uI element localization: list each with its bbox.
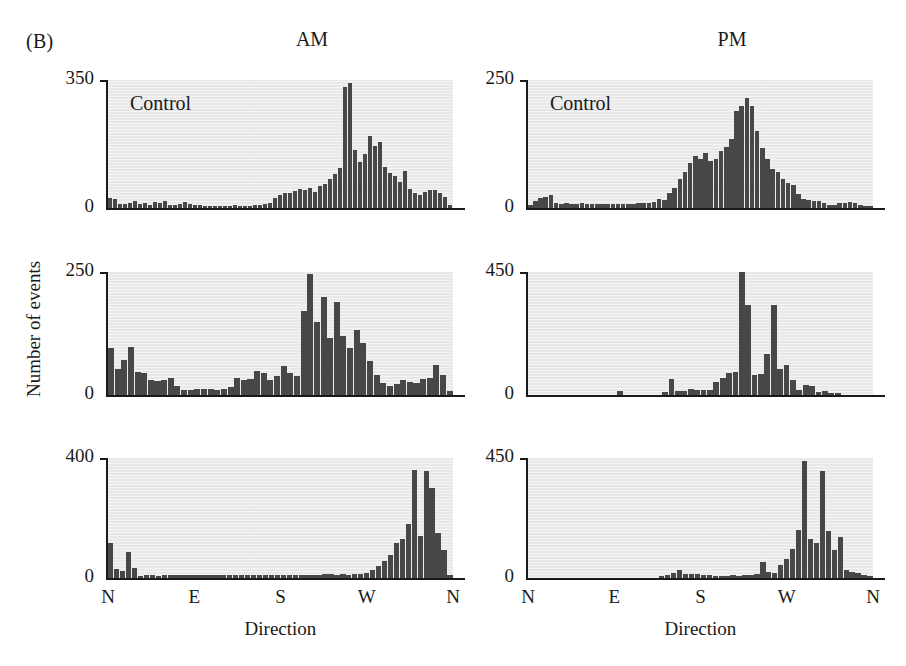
bar xyxy=(538,198,543,208)
bar xyxy=(745,305,751,395)
y-tick-label-max-pm-row2: 450 xyxy=(460,259,514,281)
bar xyxy=(243,206,247,208)
bar xyxy=(408,189,412,208)
y-axis-top-tick-am-row2 xyxy=(100,272,107,274)
bar xyxy=(203,575,208,578)
bar xyxy=(808,539,813,578)
plot-area-pm-row3 xyxy=(528,458,873,578)
bar xyxy=(188,204,192,208)
bar xyxy=(803,385,809,395)
bar xyxy=(343,87,347,208)
bar xyxy=(403,171,407,208)
bar xyxy=(662,200,667,208)
x-tick-label-am-row3-0: N xyxy=(96,586,120,608)
bar xyxy=(752,375,758,395)
y-tick-label-zero-pm-row3: 0 xyxy=(460,565,514,587)
bar xyxy=(832,205,837,208)
bar xyxy=(150,575,155,578)
bar xyxy=(398,182,402,208)
bar xyxy=(701,575,706,578)
bar xyxy=(288,193,292,208)
bar xyxy=(281,575,286,578)
bar xyxy=(703,153,708,208)
bar xyxy=(814,543,819,578)
bar xyxy=(281,366,287,395)
bar xyxy=(420,379,426,395)
bar xyxy=(724,147,729,208)
bar xyxy=(114,569,119,578)
x-tick-label-am-row3-3: W xyxy=(355,586,379,608)
bar xyxy=(835,393,841,395)
bar xyxy=(832,550,837,578)
bar xyxy=(148,205,152,208)
bar xyxy=(283,193,287,208)
x-axis-line-am-control xyxy=(106,208,465,210)
bar xyxy=(714,159,719,208)
bar xyxy=(115,369,121,395)
y-tick-label-max-am-row3: 400 xyxy=(40,445,94,467)
bar xyxy=(275,575,280,578)
bar xyxy=(128,203,132,208)
bar xyxy=(528,205,533,208)
x-tick-label-pm-row3-2: S xyxy=(689,586,713,608)
bar xyxy=(688,163,693,208)
bar xyxy=(822,203,827,208)
bar xyxy=(733,372,739,395)
bar xyxy=(786,183,791,208)
bar xyxy=(241,380,247,395)
bar xyxy=(323,184,327,208)
bar xyxy=(791,185,796,208)
bar xyxy=(141,373,147,395)
panel-annotation-am-control: Control xyxy=(130,92,191,115)
bar xyxy=(827,205,832,208)
bar xyxy=(861,575,866,578)
bar xyxy=(418,195,422,208)
bar xyxy=(748,575,753,578)
bar-series-pm-row3 xyxy=(528,458,873,578)
bar xyxy=(313,192,317,208)
y-axis-top-tick-pm-row2 xyxy=(520,272,527,274)
bar xyxy=(388,173,392,208)
bar xyxy=(734,111,739,208)
bar xyxy=(340,336,346,395)
bar xyxy=(665,575,670,578)
bar xyxy=(228,206,232,208)
bar xyxy=(777,369,783,395)
bar xyxy=(585,204,590,208)
bar xyxy=(400,380,406,395)
bar xyxy=(621,204,626,208)
bar xyxy=(694,390,700,395)
bar xyxy=(428,190,432,208)
bar xyxy=(595,204,600,208)
bar xyxy=(393,176,397,208)
bar xyxy=(201,389,207,395)
bar xyxy=(413,383,419,395)
bar xyxy=(188,390,194,395)
bar xyxy=(784,559,789,578)
bar xyxy=(698,159,703,208)
bar xyxy=(328,574,333,578)
bar xyxy=(367,361,373,395)
bar xyxy=(816,392,822,395)
y-axis-top-tick-am-control xyxy=(100,80,107,82)
bar xyxy=(173,205,177,208)
bar xyxy=(683,574,688,578)
bar xyxy=(647,203,652,208)
bar xyxy=(185,575,190,578)
bar xyxy=(269,575,274,578)
bar-series-pm-row2 xyxy=(528,272,873,395)
bar xyxy=(382,561,387,578)
bar xyxy=(657,199,662,208)
bar xyxy=(729,139,734,208)
bar xyxy=(334,302,340,395)
bar xyxy=(144,575,149,578)
bar xyxy=(233,205,237,208)
bar xyxy=(440,375,446,395)
x-tick-label-am-row3-2: S xyxy=(269,586,293,608)
bar xyxy=(247,379,253,395)
bar xyxy=(135,372,141,395)
bar xyxy=(257,575,262,578)
bar xyxy=(418,536,423,578)
bar xyxy=(168,205,172,208)
bar xyxy=(770,169,775,208)
